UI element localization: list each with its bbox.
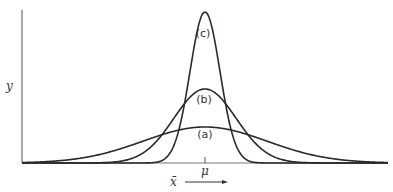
- mean-label: μ: [201, 164, 209, 178]
- sampling-distribution-diagram: y μ x̄ (a) (b) (c): [0, 0, 393, 192]
- curve-label-c: (c): [196, 27, 211, 40]
- curve-label-b: (b): [196, 93, 212, 106]
- curve-label-a: (a): [197, 128, 212, 141]
- y-axis-label: y: [5, 79, 13, 93]
- x-bar-label: x̄: [170, 175, 177, 189]
- arrow-right-icon: [185, 180, 228, 184]
